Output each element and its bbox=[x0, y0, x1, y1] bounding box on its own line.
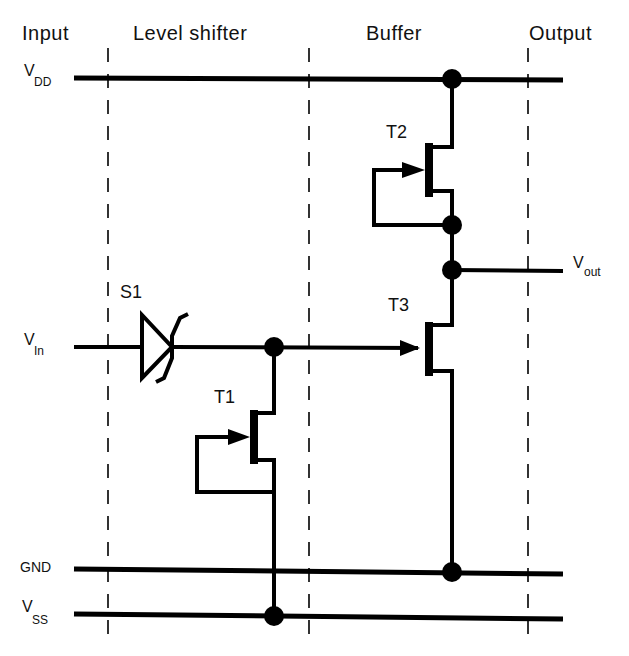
circuit-diagram: Input Level shifter Buffer Output V DD V… bbox=[0, 0, 629, 656]
section-label-buffer: Buffer bbox=[366, 22, 422, 44]
vout-wire bbox=[452, 270, 563, 271]
vin-label: V In bbox=[24, 331, 44, 358]
section-label-level-shifter: Level shifter bbox=[133, 22, 247, 44]
s1-label: S1 bbox=[120, 282, 142, 302]
gnd-rail bbox=[74, 569, 563, 574]
vss-rail bbox=[74, 614, 563, 619]
svg-text:In: In bbox=[34, 344, 44, 358]
section-label-input: Input bbox=[22, 22, 69, 44]
node-t3-gnd bbox=[442, 562, 462, 582]
svg-text:V: V bbox=[573, 254, 584, 271]
gnd-label: GND bbox=[20, 559, 51, 575]
t2-transistor-icon bbox=[374, 79, 452, 269]
vdd-rail bbox=[74, 78, 563, 80]
t1-label: T1 bbox=[214, 387, 235, 407]
svg-text:out: out bbox=[584, 265, 601, 279]
node-t1-vss bbox=[264, 606, 284, 626]
t3-transistor-icon bbox=[425, 270, 452, 572]
t2-label: T2 bbox=[386, 122, 407, 142]
t1-transistor-icon bbox=[197, 347, 274, 616]
s1-to-t3-wire bbox=[172, 347, 418, 348]
vss-label: V SS bbox=[22, 598, 48, 627]
vout-label: V out bbox=[573, 254, 601, 279]
t3-label: T3 bbox=[388, 295, 409, 315]
section-label-output: Output bbox=[529, 22, 592, 44]
svg-text:DD: DD bbox=[34, 75, 52, 89]
vdd-label: V DD bbox=[24, 62, 52, 89]
t3-gate-arrow-icon bbox=[400, 340, 420, 356]
node-t2-source bbox=[442, 215, 462, 235]
svg-text:SS: SS bbox=[32, 613, 48, 627]
